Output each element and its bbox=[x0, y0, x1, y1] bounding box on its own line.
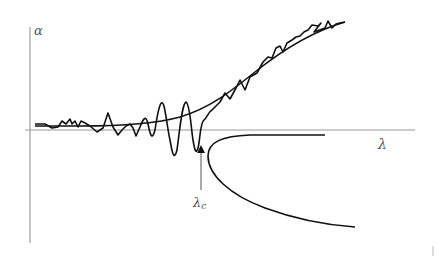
critical-point-label: λc bbox=[193, 196, 206, 211]
x-axis-label: λ bbox=[378, 137, 387, 151]
critical-point-symbol: λ bbox=[193, 195, 201, 210]
smooth-fitted-curve bbox=[35, 22, 345, 126]
critical-point-subscript: c bbox=[201, 201, 206, 211]
y-axis-label: α bbox=[34, 24, 43, 37]
diagram-canvas bbox=[0, 0, 446, 269]
bifurcation-branch bbox=[208, 135, 355, 227]
